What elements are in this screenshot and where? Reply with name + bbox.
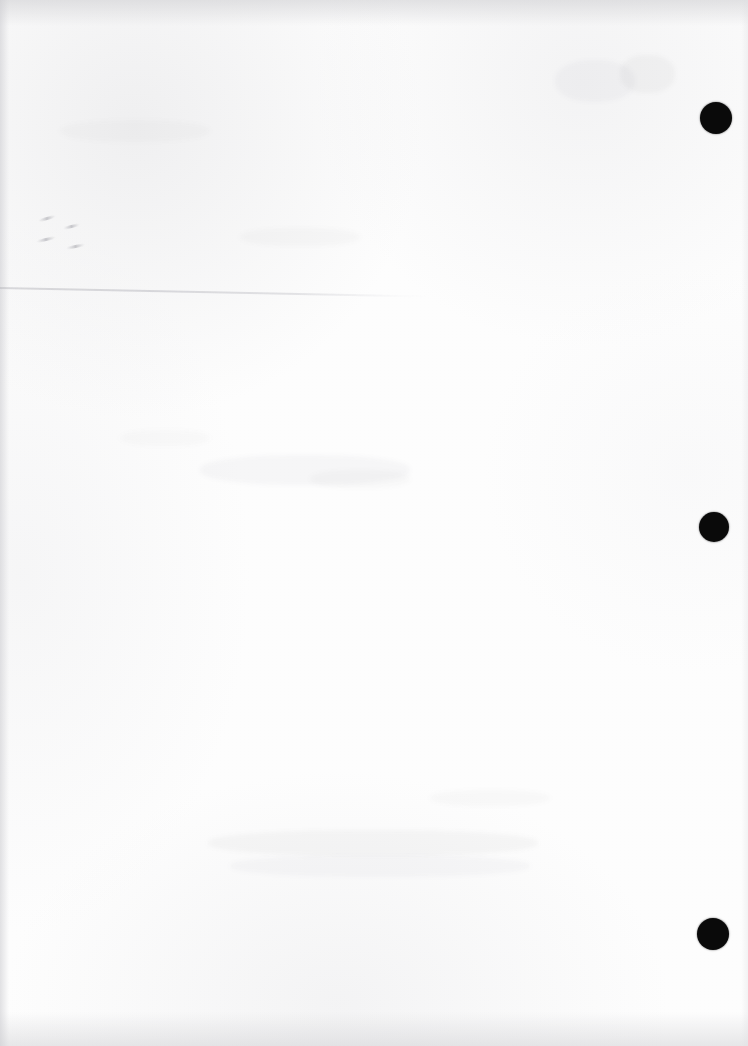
scan-edge-shadow-bottom bbox=[0, 1012, 748, 1046]
paper-surface bbox=[0, 0, 748, 1046]
scan-edge-shadow-right bbox=[741, 0, 748, 1046]
scan-edge-shadow-top bbox=[0, 0, 748, 26]
scan-edge-shadow-left bbox=[0, 0, 9, 1046]
punch-mark-middle bbox=[699, 512, 729, 542]
punch-mark-top bbox=[700, 102, 732, 134]
scanned-page bbox=[0, 0, 748, 1046]
punch-mark-bottom bbox=[697, 918, 729, 950]
